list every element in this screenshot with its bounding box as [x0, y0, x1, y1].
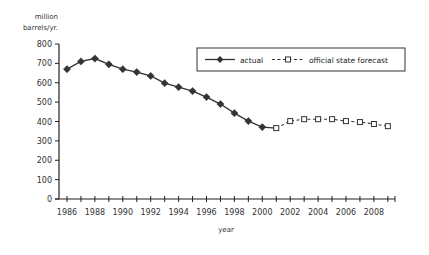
actual-diamond-marker [189, 87, 196, 94]
actual-diamond-marker [203, 93, 210, 100]
actual-diamond-marker [175, 84, 182, 91]
legend-square-icon [286, 57, 291, 62]
actual-diamond-marker [259, 124, 266, 131]
x-tick-label: 2004 [308, 208, 328, 217]
forecast-square-marker [385, 124, 390, 129]
x-tick-label: 1998 [224, 208, 244, 217]
legend-forecast-label: official state forecast [309, 56, 388, 65]
y-tick-label: 200 [37, 156, 52, 165]
x-tick-label: 2002 [280, 208, 300, 217]
x-tick-label: 1988 [85, 208, 105, 217]
actual-diamond-marker [77, 58, 84, 65]
x-tick-label: 1992 [141, 208, 161, 217]
x-tick-label: 2006 [336, 208, 356, 217]
forecast-square-marker [302, 117, 307, 122]
forecast-square-marker [288, 119, 293, 124]
x-tick-label: 1994 [168, 208, 188, 217]
actual-diamond-marker [161, 80, 168, 87]
actual-diamond-marker [63, 66, 70, 73]
chart-container: million barrels/yr. 01002003004005006007… [0, 0, 429, 255]
x-tick-label: 2000 [252, 208, 272, 217]
forecast-square-marker [274, 126, 279, 131]
x-tick-label: 1990 [113, 208, 133, 217]
actual-diamond-marker [245, 118, 252, 125]
y-tick-label: 400 [37, 118, 52, 127]
legend: actualofficial state forecast [197, 48, 405, 71]
line-chart: 0100200300400500600700800198619881990199… [0, 0, 429, 255]
actual-diamond-marker [119, 66, 126, 73]
y-tick-label: 800 [37, 40, 52, 49]
actual-diamond-marker [91, 55, 98, 62]
forecast-square-marker [330, 117, 335, 122]
y-tick-label: 300 [37, 137, 52, 146]
forecast-square-marker [371, 122, 376, 127]
actual-diamond-marker [133, 68, 140, 75]
x-axis-label: year [218, 226, 234, 234]
y-tick-label: 500 [37, 98, 52, 107]
actual-diamond-marker [231, 110, 238, 117]
forecast-square-marker [316, 117, 321, 122]
x-tick-label: 2008 [364, 208, 384, 217]
legend-actual-label: actual [240, 56, 263, 65]
forecast-square-marker [357, 120, 362, 125]
actual-diamond-marker [105, 61, 112, 68]
actual-diamond-marker [147, 72, 154, 79]
y-tick-label: 600 [37, 79, 52, 88]
y-tick-label: 0 [47, 195, 52, 204]
y-tick-label: 700 [37, 59, 52, 68]
x-tick-label: 1996 [196, 208, 216, 217]
forecast-square-marker [344, 119, 349, 124]
y-tick-label: 100 [37, 176, 52, 185]
x-tick-label: 1986 [57, 208, 77, 217]
actual-diamond-marker [217, 100, 224, 107]
